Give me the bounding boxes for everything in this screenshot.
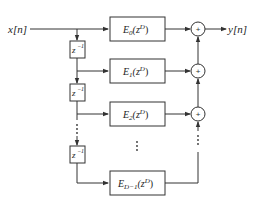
svg-text:−1: −1 [77, 148, 84, 154]
svg-text:E2(zD): E2(zD) [122, 108, 148, 122]
adder-ellipsis [197, 135, 199, 145]
svg-text:E1(zD): E1(zD) [122, 65, 148, 79]
branch-line-3 [77, 163, 108, 183]
svg-text:+: + [196, 67, 201, 76]
adder-1: + [191, 64, 205, 78]
svg-text:z: z [71, 45, 76, 55]
delay-block-2: z −1 [70, 84, 85, 101]
svg-text:z: z [71, 150, 76, 160]
output-label: y[n] [227, 23, 247, 35]
svg-text:+: + [196, 25, 201, 34]
filter-block-e0: E0(zD) [110, 17, 165, 41]
filter-block-e2: E2(zD) [110, 102, 165, 126]
svg-text:E0(zD): E0(zD) [122, 23, 148, 37]
svg-text:−1: −1 [77, 86, 84, 92]
adder-0: + [191, 22, 205, 36]
svg-text:−1: −1 [77, 43, 84, 49]
delay-ellipsis [76, 124, 78, 134]
filter-block-e1: E1(zD) [110, 59, 165, 83]
input-label: x[n] [7, 23, 27, 35]
delay-block-1: z −1 [70, 41, 85, 58]
ed-1-to-adder [165, 152, 198, 183]
delay-block-3: z −1 [70, 146, 85, 163]
svg-text:+: + [196, 110, 201, 119]
polyphase-diagram: x[n] z −1 z −1 z −1 E0(zD) E1(zD) E2(z [0, 0, 259, 202]
branch-ellipsis [136, 141, 138, 151]
svg-text:z: z [71, 88, 76, 98]
adder-2: + [191, 107, 205, 121]
filter-block-ed-1: ED−1(zD) [110, 171, 165, 195]
